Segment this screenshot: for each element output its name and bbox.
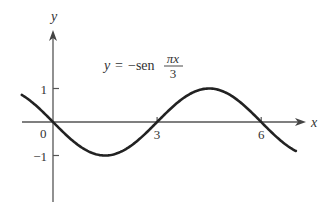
origin-label: 0	[40, 126, 47, 141]
svg-text:3: 3	[170, 66, 177, 81]
svg-text:πx: πx	[167, 51, 180, 66]
svg-text:y: y	[102, 58, 111, 73]
equation-label: y = −sen πx 3	[102, 51, 183, 81]
chart-canvas: y x 0 361−1 y = −sen πx 3	[0, 0, 328, 221]
svg-text:=: =	[115, 58, 123, 73]
y-tick-label: −1	[33, 149, 47, 164]
x-tick-label: 3	[154, 127, 161, 142]
y-tick-label: 1	[41, 82, 48, 97]
x-axis-label: x	[310, 115, 318, 130]
y-axis-label: y	[49, 9, 58, 24]
svg-text:−sen: −sen	[128, 58, 155, 73]
x-tick-label: 6	[258, 127, 265, 142]
